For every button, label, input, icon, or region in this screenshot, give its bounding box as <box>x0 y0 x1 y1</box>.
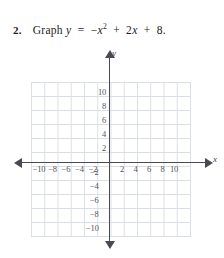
y-tick-label: −6 <box>90 195 108 205</box>
equation-equals: = <box>78 24 85 36</box>
y-tick-label: −10 <box>86 223 104 233</box>
x-axis-arrow-right-icon <box>205 158 213 168</box>
problem-statement: 2. Graph y = −x2 + 2x + 8. <box>0 24 224 44</box>
y-tick-label: 6 <box>88 115 106 125</box>
y-tick-label: 4 <box>88 129 106 139</box>
x-axis-line <box>22 162 208 163</box>
y-axis-line <box>109 56 110 248</box>
instruction-word: Graph <box>33 24 63 36</box>
coordinate-graph[interactable]: y x −10 −8 −6 −4 −2 2 4 6 8 10 10 8 6 4 … <box>0 48 224 258</box>
y-axis-arrow-down-icon <box>105 241 115 249</box>
y-tick-label: 10 <box>88 87 106 97</box>
y-tick-label: 8 <box>88 101 106 111</box>
graph-grid <box>31 82 191 237</box>
x-tick-label: 10 <box>165 164 183 174</box>
equation-plus-2: + <box>144 24 151 36</box>
y-tick-label: 2 <box>88 143 106 153</box>
equation-lhs: y <box>66 24 71 36</box>
problem-instruction-text: Graph y = −x2 + 2x + 8. <box>33 24 166 36</box>
equation-plus-1: + <box>113 24 120 36</box>
y-axis-label: y <box>112 48 116 58</box>
equation-period: . <box>163 24 166 36</box>
y-tick-label: −2 <box>90 167 108 177</box>
x-axis-arrow-left-icon <box>14 158 22 168</box>
equation-term2-variable: x <box>132 24 137 36</box>
equation-term1-exponent: 2 <box>103 22 107 31</box>
y-tick-label: −8 <box>90 209 108 219</box>
x-axis-label: x <box>213 154 217 164</box>
y-tick-label: −4 <box>90 181 108 191</box>
problem-number: 2. <box>13 24 22 36</box>
